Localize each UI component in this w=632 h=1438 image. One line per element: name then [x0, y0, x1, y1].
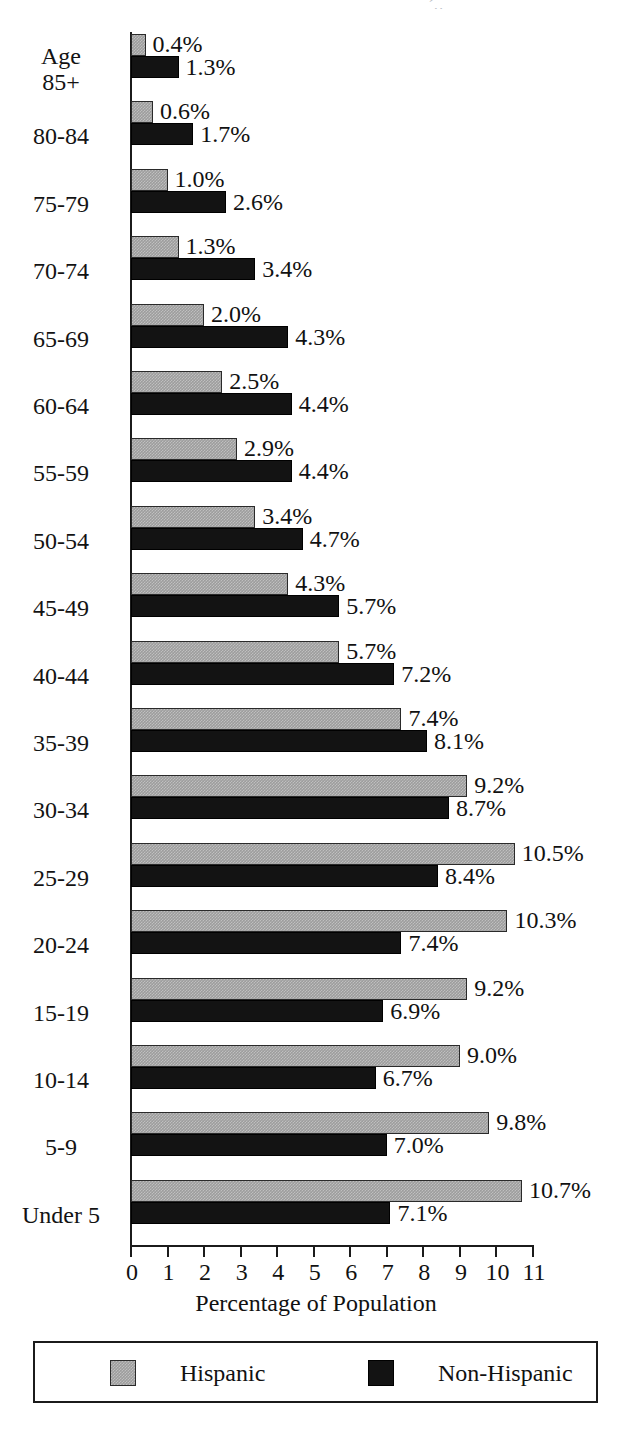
category-label-line: 25-29 [0, 865, 122, 892]
category-label: 80-84 [0, 123, 122, 150]
bar-value-label: 4.4% [299, 393, 349, 415]
x-axis-tick-mark [313, 1247, 315, 1257]
bar-hispanic[interactable] [131, 236, 179, 258]
bar-value-label: 10.3% [514, 909, 576, 931]
bar-hispanic[interactable] [131, 438, 237, 460]
bar-value-label: 1.0% [175, 168, 225, 190]
bar-value-label: 7.4% [408, 707, 458, 729]
bar-non-hispanic[interactable] [131, 258, 255, 280]
bar-non-hispanic[interactable] [131, 932, 401, 954]
category-label-line: Under 5 [0, 1202, 122, 1229]
category-label-line: 15-19 [0, 1000, 122, 1027]
bar-group: 40-445.7%7.2% [0, 639, 632, 706]
bar-hispanic[interactable] [131, 910, 507, 932]
bar-value-label: 2.5% [229, 370, 279, 392]
category-label-line: Age [0, 43, 122, 69]
category-label-line: 55-59 [0, 460, 122, 487]
bar-non-hispanic[interactable] [131, 528, 303, 550]
category-label-line: 65-69 [0, 326, 122, 353]
legend-entry-hispanic[interactable]: Hispanic [110, 1356, 265, 1390]
bar-non-hispanic[interactable] [131, 663, 394, 685]
bar-value-label: 9.2% [474, 774, 524, 796]
bar-hispanic[interactable] [131, 304, 204, 326]
bar-value-label: 7.4% [408, 932, 458, 954]
category-label: 55-59 [0, 460, 122, 487]
bar-non-hispanic[interactable] [131, 1134, 387, 1156]
bar-non-hispanic[interactable] [131, 730, 427, 752]
category-label-line: 40-44 [0, 663, 122, 690]
bar-value-label: 3.4% [262, 258, 312, 280]
bar-hispanic[interactable] [131, 978, 467, 1000]
bar-hispanic[interactable] [131, 1045, 460, 1067]
bar-hispanic[interactable] [131, 843, 515, 865]
bar-hispanic[interactable] [131, 34, 146, 56]
category-label-line: 80-84 [0, 123, 122, 150]
bar-group: 25-2910.5%8.4% [0, 841, 632, 908]
bar-non-hispanic[interactable] [131, 1067, 376, 1089]
bar-non-hispanic[interactable] [131, 460, 292, 482]
bar-hispanic[interactable] [131, 371, 222, 393]
category-label-line: 10-14 [0, 1067, 122, 1094]
bar-group: 20-2410.3%7.4% [0, 908, 632, 975]
x-axis-tick-mark [130, 1247, 132, 1257]
bar-value-label: 7.2% [401, 663, 451, 685]
bar-value-label: 8.1% [434, 730, 484, 752]
bar-non-hispanic[interactable] [131, 797, 449, 819]
bar-value-label: 2.9% [244, 437, 294, 459]
bar-group: 65-692.0%4.3% [0, 302, 632, 369]
bar-hispanic[interactable] [131, 1180, 522, 1202]
bar-hispanic[interactable] [131, 1112, 489, 1134]
bar-value-label: 4.4% [299, 460, 349, 482]
bar-non-hispanic[interactable] [131, 865, 438, 887]
bar-value-label: 1.3% [186, 56, 236, 78]
legend-entry-non-hispanic[interactable]: Non-Hispanic [368, 1356, 573, 1390]
bar-non-hispanic[interactable] [131, 191, 226, 213]
bar-hispanic[interactable] [131, 708, 401, 730]
bar-non-hispanic[interactable] [131, 1000, 383, 1022]
bar-non-hispanic[interactable] [131, 1202, 390, 1224]
bar-hispanic[interactable] [131, 573, 288, 595]
bar-value-label: 10.7% [529, 1179, 591, 1201]
x-axis-tick-label: 7 [368, 1258, 408, 1286]
x-axis-tick-label: 11 [514, 1258, 554, 1286]
bar-value-label: 9.0% [467, 1044, 517, 1066]
bar-group: 80-840.6%1.7% [0, 99, 632, 166]
category-label-line: 70-74 [0, 258, 122, 285]
bar-group: Under 510.7%7.1% [0, 1178, 632, 1245]
x-axis-tick-mark [459, 1247, 461, 1257]
category-label: 65-69 [0, 326, 122, 353]
bar-group: 55-592.9%4.4% [0, 436, 632, 503]
x-axis-tick-label: 8 [404, 1258, 444, 1286]
bar-group: 10-149.0%6.7% [0, 1043, 632, 1110]
category-label: 15-19 [0, 1000, 122, 1027]
category-label: 25-29 [0, 865, 122, 892]
bar-group: 15-199.2%6.9% [0, 976, 632, 1043]
x-axis-tick-label: 9 [441, 1258, 481, 1286]
bar-value-label: 2.6% [233, 191, 283, 213]
bar-hispanic[interactable] [131, 169, 168, 191]
bar-value-label: 6.9% [390, 1000, 440, 1022]
bar-group: 70-741.3%3.4% [0, 234, 632, 301]
bar-value-label: 1.3% [186, 235, 236, 257]
bar-value-label: 4.7% [310, 528, 360, 550]
bar-non-hispanic[interactable] [131, 123, 193, 145]
category-label-line: 20-24 [0, 932, 122, 959]
category-label-line: 60-64 [0, 393, 122, 420]
bar-group: 5-99.8%7.0% [0, 1110, 632, 1177]
bar-hispanic[interactable] [131, 641, 339, 663]
bar-non-hispanic[interactable] [131, 393, 292, 415]
category-label-line: 85+ [0, 69, 122, 95]
population-age-distribution-bar-chart: Age85+0.4%1.3%80-840.6%1.7%75-791.0%2.6%… [0, 0, 632, 1320]
bar-hispanic[interactable] [131, 506, 255, 528]
bar-value-label: 2.0% [211, 303, 261, 325]
bar-hispanic[interactable] [131, 775, 467, 797]
bar-value-label: 6.7% [383, 1067, 433, 1089]
bar-value-label: 4.3% [295, 572, 345, 594]
category-label: 75-79 [0, 191, 122, 218]
bar-hispanic[interactable] [131, 101, 153, 123]
bar-non-hispanic[interactable] [131, 595, 339, 617]
x-axis-tick-label: 6 [331, 1258, 371, 1286]
bar-non-hispanic[interactable] [131, 56, 179, 78]
bar-non-hispanic[interactable] [131, 326, 288, 348]
bar-value-label: 3.4% [262, 505, 312, 527]
